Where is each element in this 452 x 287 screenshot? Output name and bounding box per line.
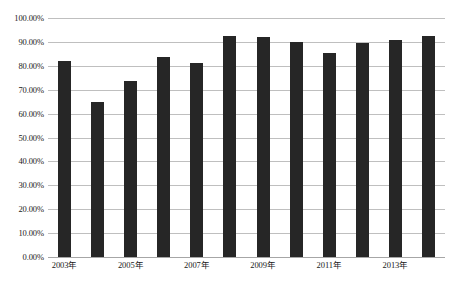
- x-tick-label: 2005年: [118, 261, 144, 270]
- y-tick-label: 80.00%: [0, 62, 44, 71]
- y-tick-label: 20.00%: [0, 205, 44, 214]
- bar: [389, 40, 402, 257]
- x-tick-label: 2009年: [250, 261, 276, 270]
- bar: [190, 63, 203, 257]
- x-tick-label: 2007年: [184, 261, 210, 270]
- bar: [290, 42, 303, 257]
- bar: [356, 43, 369, 257]
- y-tick-label: 100.00%: [0, 14, 44, 23]
- bar: [257, 37, 270, 257]
- y-tick-label: 0.00%: [0, 253, 44, 262]
- bar-chart: 0.00%10.00%20.00%30.00%40.00%50.00%60.00…: [0, 0, 452, 287]
- x-axis: 2003年2005年2007年2009年2011年2013年: [48, 259, 445, 279]
- y-axis: 0.00%10.00%20.00%30.00%40.00%50.00%60.00…: [0, 18, 44, 257]
- y-tick-label: 10.00%: [0, 229, 44, 238]
- y-tick-label: 40.00%: [0, 157, 44, 166]
- y-tick-label: 90.00%: [0, 38, 44, 47]
- axis-baseline: [48, 257, 445, 258]
- x-tick-label: 2003年: [52, 261, 78, 270]
- bars-layer: [48, 18, 445, 257]
- y-tick-label: 60.00%: [0, 109, 44, 118]
- bar: [157, 57, 170, 257]
- x-tick-label: 2011年: [317, 261, 342, 270]
- y-tick-label: 50.00%: [0, 133, 44, 142]
- bar: [422, 36, 435, 257]
- bar: [323, 53, 336, 257]
- bar: [91, 102, 104, 257]
- bar: [124, 81, 137, 257]
- x-tick-label: 2013年: [383, 261, 409, 270]
- y-tick-label: 30.00%: [0, 181, 44, 190]
- bar: [223, 36, 236, 257]
- bar: [58, 61, 71, 257]
- y-tick-label: 70.00%: [0, 85, 44, 94]
